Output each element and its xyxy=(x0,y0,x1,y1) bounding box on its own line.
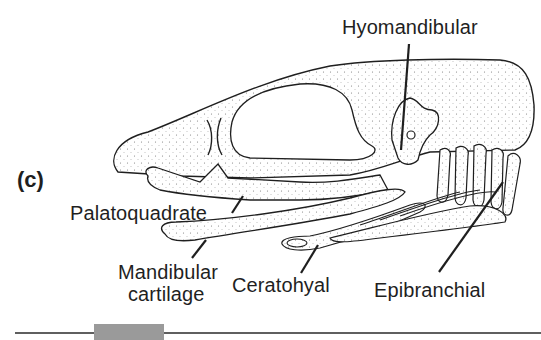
label-palatoquadrate: Palatoquadrate xyxy=(70,203,207,223)
label-mandibular-line1: Mandibular xyxy=(118,262,218,282)
scale-bar xyxy=(94,324,164,340)
panel-letter: (c) xyxy=(17,167,44,193)
chondrocranium-figure: (c) Hyomandibular Palatoquadrate Mandibu… xyxy=(0,0,541,340)
label-mandibular-line2: cartilage xyxy=(128,284,205,304)
label-epibranchial: Epibranchial xyxy=(374,280,485,300)
label-ceratohyal: Ceratohyal xyxy=(232,275,330,295)
label-hyomandibular: Hyomandibular xyxy=(342,17,478,37)
